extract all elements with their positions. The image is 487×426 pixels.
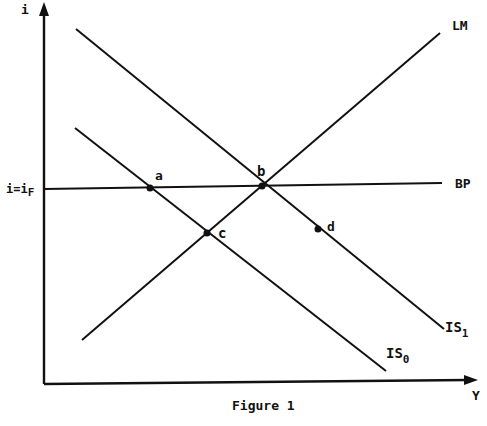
point-b-label: b <box>257 163 265 179</box>
bp-curve <box>44 183 442 189</box>
is1-label-subscript: 1 <box>462 327 469 340</box>
figure-caption: Figure 1 <box>232 398 295 413</box>
y-axis-arrow-icon <box>39 2 49 16</box>
y-tick-label-text: i=i <box>6 182 28 196</box>
is0-label-text: IS <box>386 345 403 361</box>
x-axis-label: Y <box>472 388 480 403</box>
is0-label-subscript: 0 <box>403 353 410 366</box>
y-tick-label: i=iF <box>6 182 34 199</box>
point-c-label: c <box>218 225 226 241</box>
point-d-label: d <box>327 219 335 234</box>
y-axis-label: i <box>21 2 29 17</box>
point-b-marker <box>259 183 266 190</box>
is0-label: IS0 <box>386 345 409 366</box>
is1-label-text: IS <box>445 319 462 335</box>
y-tick-label-subscript: F <box>28 186 35 199</box>
x-axis-arrow-icon <box>464 375 478 385</box>
is1-label: IS1 <box>445 319 469 340</box>
bp-label: BP <box>455 176 471 191</box>
point-d-marker <box>315 226 322 233</box>
is-lm-bp-diagram: a b c d LM BP IS1 IS0 i Y i=iF Figure 1 <box>0 0 487 426</box>
is1-curve <box>76 29 444 329</box>
point-a-label: a <box>155 168 163 183</box>
point-a-marker <box>147 185 154 192</box>
is0-curve <box>75 128 386 371</box>
lm-label: LM <box>452 18 468 33</box>
point-c-marker <box>204 230 211 237</box>
x-axis <box>44 380 468 384</box>
